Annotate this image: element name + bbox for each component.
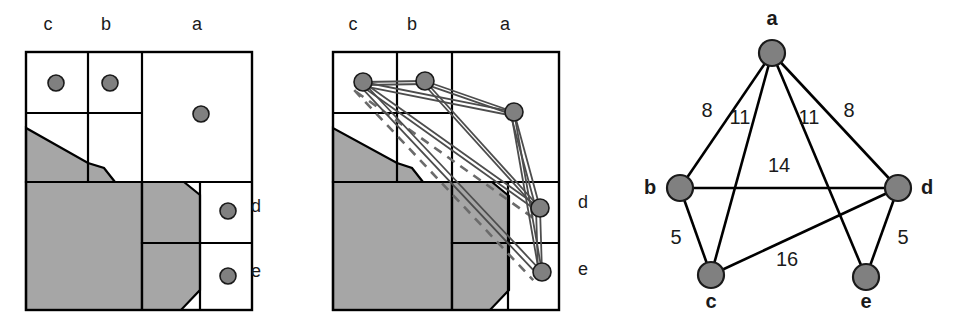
panel2-point-d[interactable]: [531, 199, 549, 217]
edge-weight-b-c: 5: [670, 226, 681, 248]
edge-weight-a-b: 8: [701, 99, 712, 121]
edge-weight-a-c: 11: [730, 106, 751, 128]
panel2-point-e[interactable]: [533, 263, 551, 281]
panel2-point-a[interactable]: [505, 103, 523, 121]
panel1-row-label-e: e: [251, 261, 261, 281]
graph-node-b[interactable]: [667, 175, 693, 201]
graph-node-label-e: e: [860, 290, 871, 312]
panel2-column-label-b: b: [407, 14, 417, 34]
panel2-column-label-c: c: [349, 14, 358, 34]
edge-weight-d-e: 5: [897, 226, 908, 248]
panel1-region-mid-right-wedge: [142, 182, 200, 243]
panel1-point-a[interactable]: [193, 106, 209, 122]
panel1-point-d[interactable]: [220, 203, 236, 219]
graph-node-label-c: c: [705, 290, 716, 312]
figure-root: cbade cbade 811118145165abdce: [0, 0, 957, 330]
panel2-point-c[interactable]: [354, 73, 372, 91]
panel1-point-e[interactable]: [220, 268, 236, 284]
figure-canvas: cbade cbade 811118145165abdce: [0, 0, 957, 330]
panel2-region-mid-right-wedge: [452, 182, 509, 243]
edge-weight-a-e: 11: [799, 106, 820, 128]
graph-node-a[interactable]: [759, 40, 785, 66]
graph-node-c[interactable]: [698, 262, 724, 288]
edge-weight-b-d: 14: [768, 154, 790, 176]
graph-node-label-d: d: [921, 176, 933, 198]
panel2-column-label-a: a: [500, 14, 511, 34]
panel1-region-bottom-right-wedge: [142, 243, 200, 310]
edge-weight-a-d: 8: [843, 99, 854, 121]
panel1-region-lower-block: [26, 182, 142, 310]
panel2-row-label-d: d: [578, 192, 588, 212]
edge-weight-c-d: 16: [776, 248, 798, 270]
panel2-point-b[interactable]: [416, 72, 434, 90]
panel1-column-label-a: a: [192, 14, 203, 34]
panel2-region-lower-block: [333, 182, 452, 310]
graph-node-label-a: a: [766, 7, 778, 29]
panel2-row-label-e: e: [578, 259, 588, 279]
panel1-row-label-d: d: [251, 196, 261, 216]
panel1-column-label-b: b: [101, 14, 111, 34]
graph-node-e[interactable]: [853, 264, 879, 290]
panel2-region-bottom-right-wedge: [452, 243, 509, 310]
graph-node-d[interactable]: [885, 175, 911, 201]
panel1-point-c[interactable]: [48, 75, 64, 91]
panel1-column-label-c: c: [44, 14, 53, 34]
graph-node-label-b: b: [644, 176, 656, 198]
panel1-point-b[interactable]: [102, 75, 118, 91]
